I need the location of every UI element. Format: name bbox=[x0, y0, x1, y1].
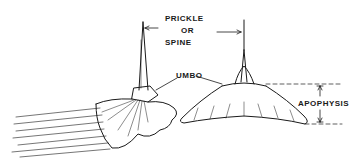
umbo-label: UMBO bbox=[176, 72, 202, 80]
apophysis-label: APOPHYSIS bbox=[298, 100, 349, 108]
diagram-drawing bbox=[0, 0, 357, 168]
pine-cone-scale-diagram: PRICKLE OR SPINE UMBO APOPHYSIS bbox=[0, 0, 357, 168]
left-scale-side-view bbox=[12, 22, 177, 157]
or-label: OR bbox=[181, 27, 194, 35]
prickle-label: PRICKLE bbox=[165, 15, 204, 23]
spine-label: SPINE bbox=[165, 39, 192, 47]
